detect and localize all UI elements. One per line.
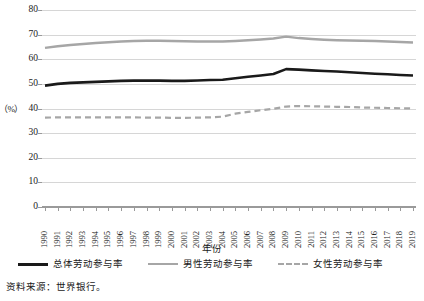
series-line-2: [45, 106, 413, 118]
chart-figure: （%） 01020304050607080 199019911992199319…: [0, 0, 424, 301]
y-tick-label-30: 30: [14, 128, 38, 138]
x-axis-ticks: 1990199119921993199419951996199719981999…: [42, 208, 416, 248]
legend-swatch-icon-1: [148, 258, 178, 270]
x-tick-mark-1996: [121, 208, 122, 211]
y-tick-label-50: 50: [14, 79, 38, 89]
x-tick-mark-2019: [413, 208, 414, 211]
x-axis-title: 年份: [0, 244, 424, 255]
legend-swatch-icon-2: [278, 258, 308, 270]
legend-item-0[interactable]: 总体劳动参与率: [18, 256, 123, 272]
x-tick-mark-2015: [362, 208, 363, 211]
y-tick-label-20: 20: [14, 153, 38, 163]
x-tick-mark-1997: [134, 208, 135, 211]
legend-swatch-icon-0: [18, 258, 48, 270]
y-tick-label-80: 80: [14, 5, 38, 15]
x-tick-mark-2001: [185, 208, 186, 211]
x-tick-mark-2003: [210, 208, 211, 211]
x-tick-mark-1999: [159, 208, 160, 211]
legend-label-1: 男性劳动参与率: [183, 258, 253, 270]
y-tick-label-60: 60: [14, 54, 38, 64]
x-tick-mark-1994: [96, 208, 97, 211]
y-tick-label-0: 0: [14, 202, 38, 212]
x-tick-mark-2007: [261, 208, 262, 211]
y-tick-label-70: 70: [14, 30, 38, 40]
x-tick-mark-2005: [235, 208, 236, 211]
x-tick-mark-2010: [299, 208, 300, 211]
legend-item-2[interactable]: 女性劳动参与率: [278, 256, 383, 272]
x-tick-mark-2004: [223, 208, 224, 211]
x-axis-line: [42, 206, 416, 207]
x-tick-mark-2013: [337, 208, 338, 211]
x-tick-mark-1995: [108, 208, 109, 211]
plot-area: [42, 10, 416, 207]
x-tick-mark-2006: [248, 208, 249, 211]
x-tick-mark-1993: [83, 208, 84, 211]
x-tick-mark-2000: [172, 208, 173, 211]
x-tick-mark-2011: [312, 208, 313, 211]
x-tick-mark-2002: [197, 208, 198, 211]
x-tick-mark-2009: [286, 208, 287, 211]
series-line-1: [45, 37, 413, 48]
x-tick-mark-1990: [45, 208, 46, 211]
source-note: 资料来源：世界银行。: [6, 281, 106, 293]
x-tick-mark-2017: [388, 208, 389, 211]
series-line-0: [45, 69, 413, 86]
chart-legend: 总体劳动参与率男性劳动参与率女性劳动参与率: [0, 256, 424, 272]
x-tick-mark-2018: [400, 208, 401, 211]
x-tick-mark-1998: [147, 208, 148, 211]
x-tick-mark-1991: [58, 208, 59, 211]
legend-item-1[interactable]: 男性劳动参与率: [148, 256, 253, 272]
y-axis-title: （%）: [0, 104, 21, 114]
x-tick-mark-2016: [375, 208, 376, 211]
legend-label-0: 总体劳动参与率: [53, 258, 123, 270]
y-tick-label-10: 10: [14, 177, 38, 187]
x-tick-mark-2014: [350, 208, 351, 211]
x-tick-mark-2008: [273, 208, 274, 211]
x-tick-mark-1992: [70, 208, 71, 211]
legend-label-2: 女性劳动参与率: [313, 258, 383, 270]
x-tick-mark-2012: [324, 208, 325, 211]
series-lines: [42, 10, 416, 207]
